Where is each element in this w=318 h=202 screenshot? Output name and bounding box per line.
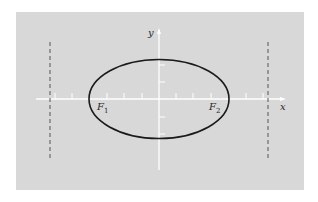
focus1-label: F1 [97,102,108,115]
ellipse-diagram [0,0,318,202]
y-axis-label: y [148,28,154,38]
y-axis-arrow-icon [157,28,161,34]
focus2-label: F2 [209,102,220,115]
x-axis-label: x [280,102,286,112]
